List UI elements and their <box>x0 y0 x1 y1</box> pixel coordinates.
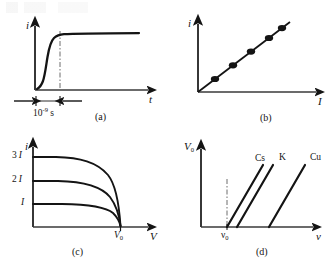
panel-b-data-point <box>211 76 219 82</box>
panel-c-plot <box>0 133 168 266</box>
panel-b-caption: (b) <box>260 113 272 123</box>
panel-c-y-tick-3I-number: 3 <box>12 150 17 160</box>
panel-d-line-k <box>237 165 273 227</box>
panel-b-line <box>198 22 290 92</box>
panel-c: i V 3 I 2 I I V0 (c) <box>0 133 168 266</box>
panel-c-caption: (c) <box>72 247 83 257</box>
panel-d-x-axis-label: ν <box>316 231 321 242</box>
panel-a-annotation-base: 10 <box>33 108 43 118</box>
panel-b-data-point <box>247 49 255 55</box>
panel-d-y-axis-symbol: V <box>184 140 191 152</box>
panel-c-x-tick-V0-symbol: V <box>114 230 120 240</box>
panel-d-caption: (d) <box>256 247 268 257</box>
panel-d-x-tick-nu0-subscript: 0 <box>225 234 228 241</box>
panel-d-series-label-cu: Cu <box>310 153 321 163</box>
panel-d-series-label-cs: Cs <box>255 154 265 164</box>
panel-c-x-tick-V0-subscript: 0 <box>120 234 123 241</box>
panel-c-y-tick-2I: 2 I <box>12 175 22 185</box>
panel-d-y-axis-subscript: 0 <box>191 146 194 153</box>
panel-a-annotation-unit: s <box>50 108 54 118</box>
panel-a-caption: (a) <box>95 112 106 122</box>
panel-c-y-tick-3I-symbol: I <box>19 150 22 160</box>
panel-c-x-axis-label: V <box>150 231 157 242</box>
panel-a-time-annotation: 10-9 s <box>33 109 54 119</box>
panel-d: V0 ν Cs K Cu ν0 (d) <box>168 133 336 266</box>
panel-a-x-axis-label: t <box>149 94 152 105</box>
panel-d-line-cu <box>269 165 305 227</box>
panel-b: i I (b) <box>168 0 336 133</box>
panel-c-curve-3I <box>33 157 121 226</box>
panel-d-y-axis-label: V0 <box>184 141 194 152</box>
panel-b-data-point <box>278 25 286 31</box>
panel-a-annotation-exponent: -9 <box>43 106 48 113</box>
panel-b-data-point <box>229 62 237 68</box>
panel-d-x-tick-nu0: ν0 <box>221 231 229 241</box>
panel-c-y-tick-2I-symbol: I <box>19 174 22 184</box>
panel-c-y-axis-label: i <box>25 141 28 152</box>
panel-d-line-cs <box>227 165 263 227</box>
panel-b-y-axis-label: i <box>188 18 191 29</box>
panel-c-curve-I <box>33 204 121 226</box>
photoelectric-figure: i t 10-9 s (a) i I (b) <box>0 0 336 266</box>
panel-c-y-tick-I-symbol: I <box>21 197 24 207</box>
panel-c-y-tick-I: I <box>21 198 24 208</box>
panel-b-x-axis-label: I <box>318 96 322 107</box>
panel-d-series-label-k: K <box>279 153 286 163</box>
panel-c-y-tick-2I-number: 2 <box>12 174 17 184</box>
panel-b-plot <box>168 0 336 133</box>
panel-a-curve <box>37 33 139 89</box>
panel-a-y-axis-label: i <box>26 20 29 31</box>
panel-b-data-point <box>265 35 273 41</box>
panel-c-y-tick-3I: 3 I <box>12 151 22 161</box>
panel-c-x-tick-V0: V0 <box>114 231 123 241</box>
panel-a: i t 10-9 s (a) <box>0 0 168 133</box>
